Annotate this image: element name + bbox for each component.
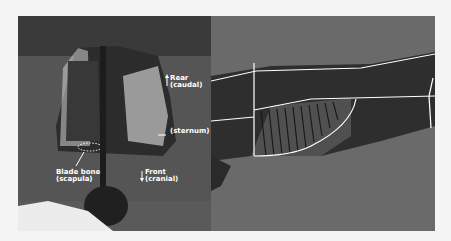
right-photo-carcass-side-view (211, 16, 435, 231)
arrows-overlay (18, 16, 211, 231)
down-arrow-icon (140, 171, 144, 182)
right-photo-graphic (211, 16, 435, 231)
up-arrow-icon (165, 74, 169, 86)
left-photo-carcass-top-view: Rear (caudal) (sternum) Blade bone (scap… (18, 16, 211, 231)
